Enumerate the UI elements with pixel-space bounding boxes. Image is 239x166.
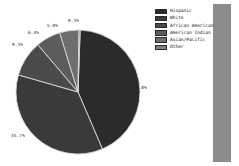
legend-swatch (155, 16, 167, 21)
legend-label: White (170, 15, 184, 21)
slice-label-white: 35.7% (11, 133, 25, 138)
pie-slices (16, 30, 140, 154)
legend-item[interactable]: White (155, 15, 237, 22)
legend-label: American Indian (170, 30, 211, 36)
legend-item[interactable]: American Indian (155, 30, 237, 37)
slice-label-african-american: 9.3% (12, 42, 23, 47)
legend-item[interactable]: African American (155, 22, 237, 29)
slice-label-hispanic: 42.8% (133, 85, 147, 90)
slice-label-asian-pacific: 5.0% (47, 23, 58, 28)
legend-item[interactable]: Other (155, 44, 237, 51)
pie-plot-area (14, 22, 142, 162)
slice-label-american-indian: 6.4% (28, 30, 39, 35)
legend-swatch (155, 37, 167, 42)
legend-swatch (155, 30, 167, 35)
legend-item[interactable]: Hispanic (155, 8, 237, 15)
legend-swatch (155, 23, 167, 28)
slice-label-other: 0.3% (68, 18, 79, 23)
legend: HispanicWhiteAfrican AmericanAmerican In… (155, 8, 237, 51)
legend-label: Other (170, 44, 184, 50)
pie-svg (14, 22, 142, 162)
legend-item[interactable]: Asian/Pacific (155, 37, 237, 44)
legend-label: African American (170, 23, 213, 29)
legend-swatch (155, 45, 167, 50)
legend-label: Asian/Pacific (170, 37, 205, 43)
pie-chart-figure: 0.3% 5.0% 6.4% 9.3% 42.8% 35.7% Hispanic… (0, 0, 239, 166)
legend-label: Hispanic (170, 8, 192, 14)
legend-swatch (155, 9, 167, 14)
